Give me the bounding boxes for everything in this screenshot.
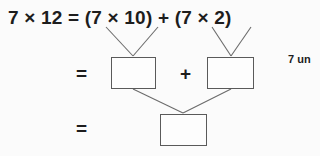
ones-product-answer-box[interactable] [207, 57, 254, 89]
connector-seven-to-ones-box [212, 27, 231, 56]
equals-sign-row-three: = [76, 119, 87, 138]
connector-seven-to-tens-box [106, 27, 133, 56]
plus-sign: + [180, 64, 191, 83]
total-product-answer-box[interactable] [160, 114, 207, 146]
worksheet-canvas: 7 × 12 = (7 × 10) + (7 × 2) = + = 7 un [0, 0, 320, 156]
connector-ones-box-to-total [183, 89, 231, 113]
connector-ten-to-tens-box [133, 27, 158, 56]
distributive-property-equation: 7 × 12 = (7 × 10) + (7 × 2) [8, 6, 232, 30]
side-note-text: 7 un [288, 53, 311, 66]
tens-product-answer-box[interactable] [111, 57, 156, 89]
connector-tens-box-to-total [133, 89, 183, 113]
connector-two-to-ones-box [231, 27, 251, 56]
equals-sign-row-two: = [76, 64, 87, 83]
